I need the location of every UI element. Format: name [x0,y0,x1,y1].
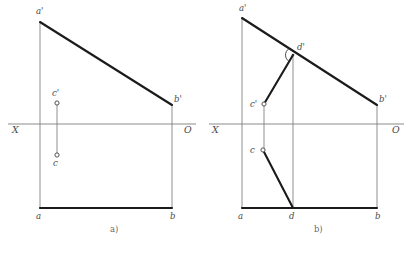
point-label-a: a [36,211,41,221]
point-label-b-prime: b' [174,94,182,104]
panel-a: XOa'b'abc'ca) [8,6,196,234]
panel-caption-a: a) [110,224,118,234]
panels-layer: XOa'b'abc'ca)XOa'b'abd'dc'cb) [8,3,404,234]
axis-label-o: O [184,124,192,135]
edge-a-prime-b-prime [40,22,172,105]
point-label-d: d [289,211,295,221]
point-label-a-prime: a' [239,3,247,13]
point-marker-c [261,148,265,152]
edge-c-d [263,150,293,208]
point-label-b: b [170,211,176,221]
point-label-c-prime: c' [250,99,257,109]
axis-label-x: X [211,124,219,135]
point-label-a: a [238,211,243,221]
figure-canvas: XOa'b'abc'ca)XOa'b'abd'dc'cb) [0,0,414,255]
point-label-b: b [375,211,381,221]
axis-label-x: X [11,124,19,135]
point-label-c: c [250,145,255,155]
edge-c-prime-d-prime [264,55,293,104]
point-label-c-prime: c' [52,88,59,98]
edge-a-prime-b-prime [242,18,377,105]
point-label-a-prime: a' [36,6,44,16]
point-label-c: c [53,158,58,168]
axis-label-o: O [392,124,400,135]
right-angle-center-dot [292,54,295,57]
projection-diagram: XOa'b'abc'ca)XOa'b'abd'dc'cb) [0,0,414,255]
point-label-b-prime: b' [379,94,387,104]
point-marker-c-prime [55,101,59,105]
panel-caption-b: b) [314,224,323,234]
right-angle-marker [286,49,290,62]
panel-b: XOa'b'abd'dc'cb) [209,3,404,234]
point-label-d-prime: d' [297,42,305,52]
point-marker-c [55,153,59,157]
point-marker-c-prime [262,102,266,106]
